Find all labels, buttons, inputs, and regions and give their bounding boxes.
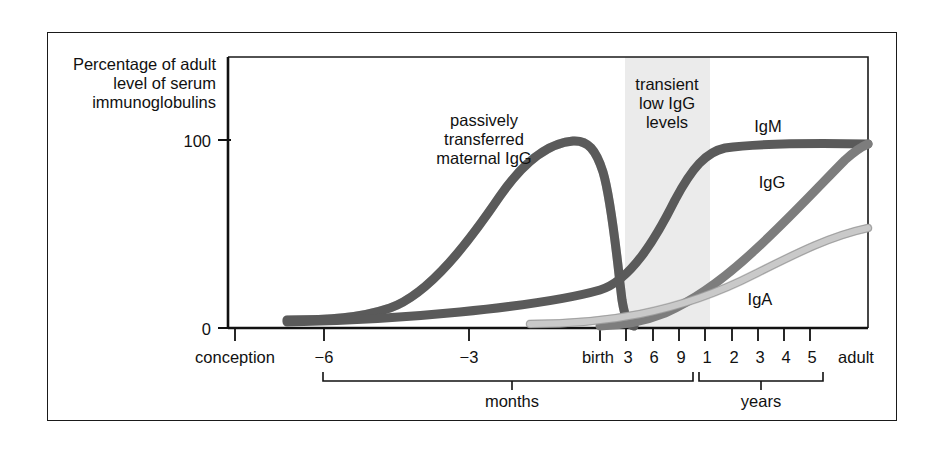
x-tick-label-4-years: 4 — [781, 348, 790, 366]
annotation-transient-line-1: transient — [635, 75, 699, 93]
annotation-maternal-igg-line-2: transferred — [444, 130, 524, 148]
plot-frame — [228, 57, 868, 328]
x-tick-label-3-months: 3 — [623, 348, 632, 366]
x-tick-marks — [235, 328, 810, 341]
x-tick-label-3-years: 3 — [755, 348, 764, 366]
annotation-transient-line-2: low IgG — [639, 94, 695, 112]
bracket-years — [699, 372, 823, 390]
x-tick-label-adult: adult — [838, 348, 874, 366]
annotation-maternal-igg-line-1: passively — [450, 111, 519, 129]
x-tick-label-2-years: 2 — [729, 348, 738, 366]
y-axis-title-line-3: immunoglobulins — [92, 93, 216, 111]
y-axis-title-line-2: level of serum — [113, 74, 216, 92]
bracket-months — [323, 372, 693, 390]
curve-label-igg: IgG — [759, 173, 786, 191]
bracket-months-label: months — [485, 392, 539, 410]
x-tick-label-conception: conception — [195, 348, 275, 366]
x-tick-label-5-years: 5 — [807, 348, 816, 366]
x-tick-label-9-months: 9 — [676, 348, 685, 366]
annotation-maternal-igg-line-3: maternal IgG — [436, 149, 531, 167]
figure-root: Percentage of adult level of serum immun… — [0, 0, 942, 453]
x-tick-label-birth: birth — [582, 348, 614, 366]
curve-igm — [287, 143, 868, 322]
y-tick-label-100: 100 — [183, 132, 211, 150]
x-tick-label-minus-3: −3 — [460, 348, 479, 366]
x-tick-label-6-months: 6 — [649, 348, 658, 366]
annotation-transient-line-3: levels — [646, 113, 688, 131]
bracket-years-label: years — [741, 392, 781, 410]
y-axis-title-line-1: Percentage of adult — [73, 55, 217, 73]
curve-label-iga: IgA — [748, 290, 773, 308]
x-tick-label-minus-6: −6 — [315, 348, 334, 366]
curve-label-igm: IgM — [754, 117, 782, 135]
x-tick-label-1-year: 1 — [702, 348, 711, 366]
y-tick-label-0: 0 — [202, 320, 211, 338]
immunoglobulin-chart: Percentage of adult level of serum immun… — [0, 0, 942, 453]
